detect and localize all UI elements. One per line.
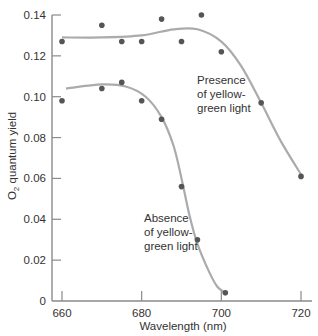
- x-tick-label: 660: [52, 307, 71, 319]
- curves: [62, 28, 301, 293]
- y-tick-label: 0.06: [24, 172, 46, 184]
- y-tick-label: 0.04: [24, 213, 47, 225]
- point-presence: [159, 16, 165, 22]
- point-presence: [59, 39, 65, 45]
- point-presence: [199, 12, 205, 18]
- point-absence: [159, 116, 165, 122]
- annotation-presence: Presence of yellow- green light: [197, 74, 252, 114]
- y-tick-label: 0: [40, 295, 46, 307]
- point-presence: [258, 100, 264, 106]
- curve-presence: [62, 28, 301, 174]
- point-presence: [99, 22, 105, 28]
- y-tick-label: 0.10: [24, 91, 46, 103]
- annotation-absence: Absence of yellow- green light: [144, 212, 199, 252]
- x-tick-label: 700: [212, 307, 231, 319]
- point-absence: [223, 290, 229, 296]
- y-axis: 00.020.040.060.080.100.120.14: [24, 9, 61, 307]
- y-tick-label: 0.02: [24, 254, 46, 266]
- data-points: [59, 12, 304, 295]
- point-presence: [119, 39, 125, 45]
- y-tick-label: 0.08: [24, 132, 46, 144]
- point-absence: [139, 98, 145, 104]
- point-presence: [139, 39, 145, 45]
- x-axis: 660680700720: [52, 291, 312, 319]
- point-absence: [179, 184, 185, 190]
- y-tick-label: 0.14: [24, 9, 47, 21]
- x-tick-label: 720: [291, 307, 310, 319]
- point-presence: [298, 174, 304, 180]
- x-axis-title: Wavelength (nm): [139, 320, 226, 332]
- chart: 00.020.040.060.080.100.120.14 6606807007…: [0, 0, 318, 336]
- point-presence: [219, 49, 225, 55]
- point-presence: [179, 39, 185, 45]
- x-tick-label: 680: [132, 307, 151, 319]
- y-axis-title: O2 quantum yield: [6, 112, 21, 200]
- point-absence: [119, 80, 125, 86]
- point-absence: [99, 86, 105, 92]
- curve-absence: [66, 84, 225, 292]
- point-absence: [59, 98, 65, 104]
- y-tick-label: 0.12: [24, 50, 46, 62]
